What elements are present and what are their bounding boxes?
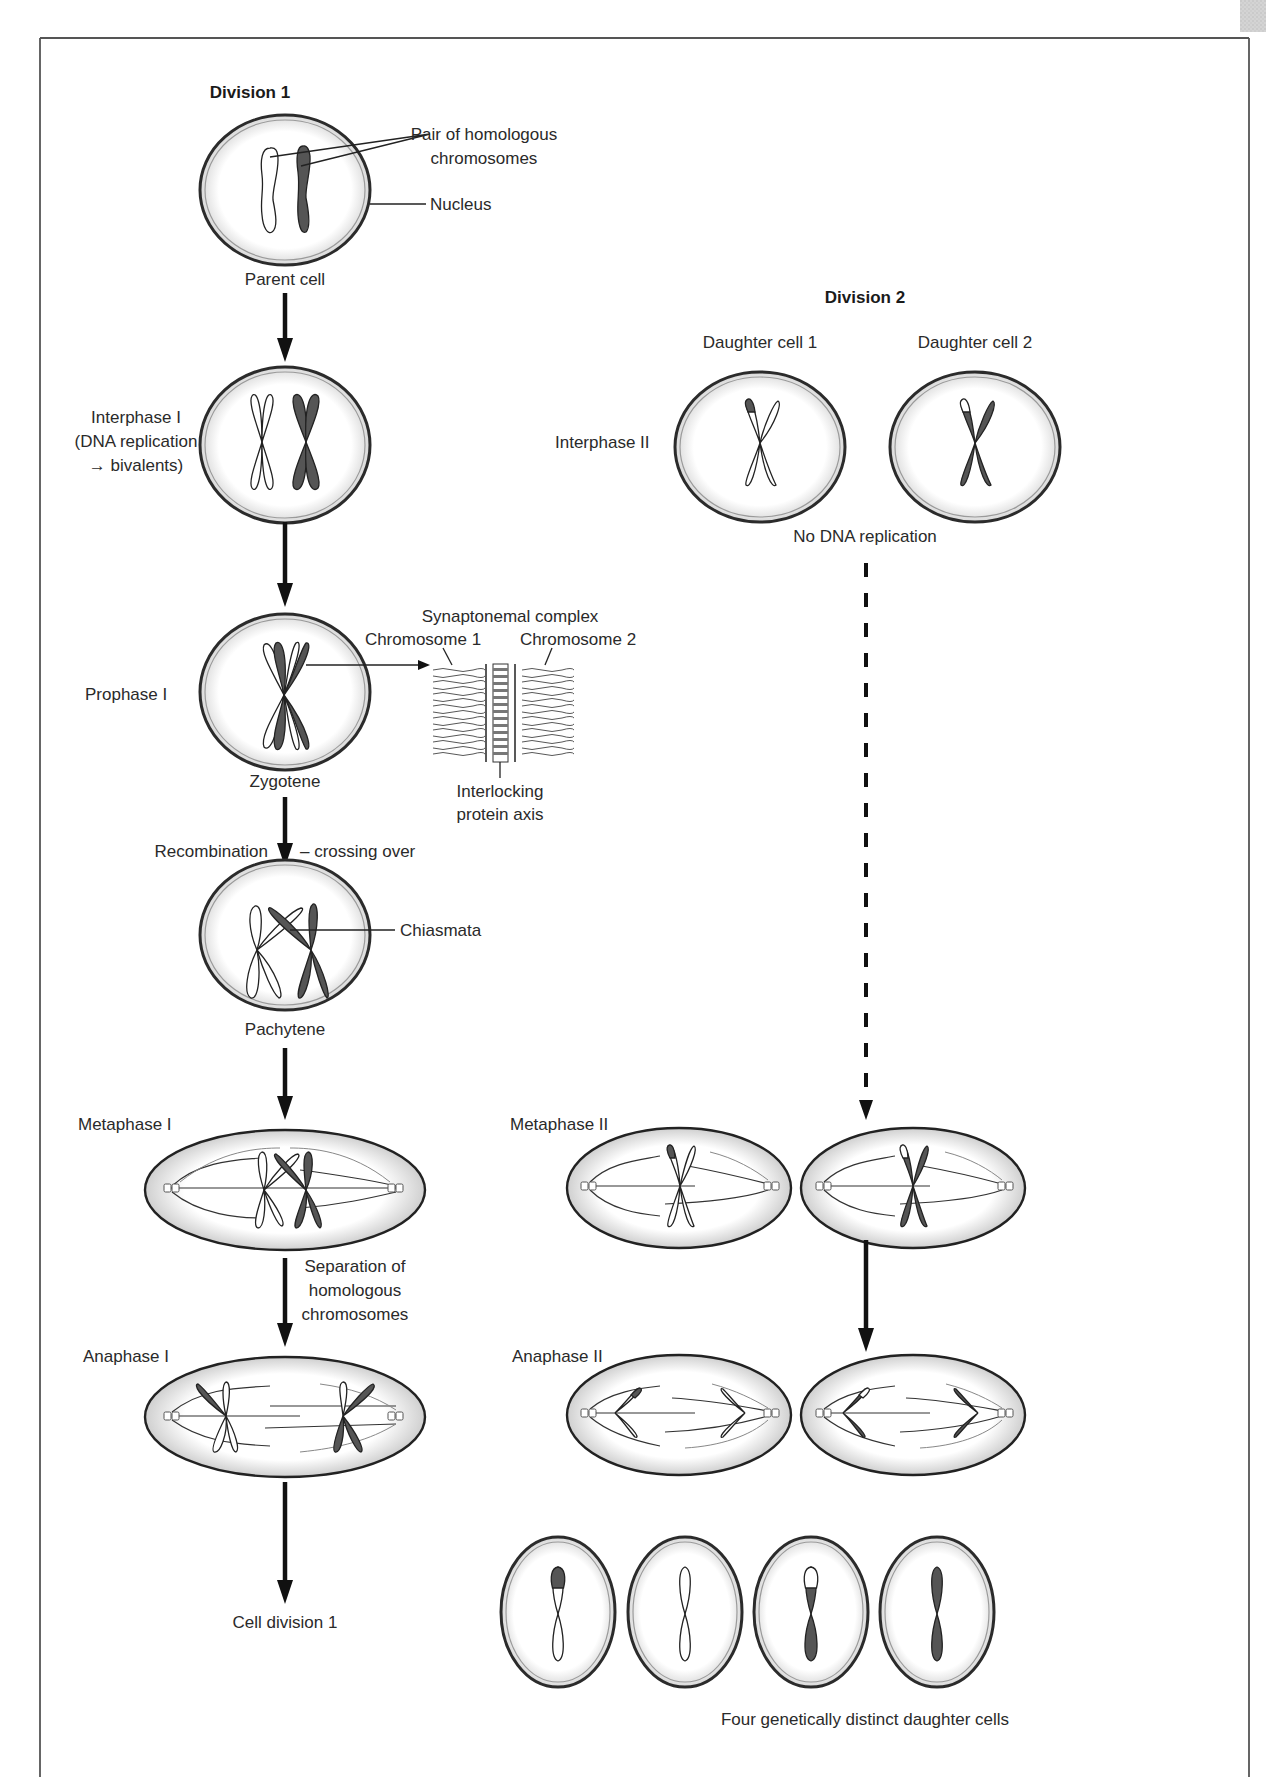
chromosome1-label: Chromosome 1 [365,630,481,649]
separation-label-line2: homologous [309,1281,402,1300]
axis-label-line2: protein axis [457,805,544,824]
chiasmata-label: Chiasmata [400,921,482,940]
homologous-label-line1: Pair of homologous [411,125,557,144]
daughter-cell2-label: Daughter cell 2 [918,333,1032,352]
parent-cell-label: Parent cell [245,270,325,289]
synaptonemal-complex [433,648,574,778]
anaphase2-label: Anaphase II [512,1347,603,1366]
meiosis-diagram: Division 1 Pair of homologous chromosome… [0,0,1276,1777]
arrow-down-icon [858,1240,874,1352]
arrow-down-icon [277,1258,293,1347]
final-daughter-cell-3 [754,1537,868,1687]
final-caption: Four genetically distinct daughter cells [721,1710,1009,1729]
daughter-cell2 [890,372,1060,522]
metaphase2-cell-right [801,1128,1025,1248]
final-daughter-cell-1 [501,1537,615,1687]
dashed-arrow-down-icon [859,563,873,1120]
prophase1-label: Prophase I [85,685,167,704]
crossing-over-label: – crossing over [300,842,416,861]
interphase1-label-line2: (DNA replication [75,432,198,451]
metaphase2-label: Metaphase II [510,1115,608,1134]
arrow-down-icon [277,1482,293,1604]
homologous-label-line2: chromosomes [431,149,538,168]
arrow-down-icon [277,522,293,607]
anaphase1-label: Anaphase I [83,1347,169,1366]
anaphase2-cell-left [567,1355,791,1475]
anaphase1-cell [145,1357,425,1477]
separation-label-line1: Separation of [304,1257,405,1276]
final-daughter-cell-4 [880,1537,994,1687]
daughter-cell1-label: Daughter cell 1 [703,333,817,352]
parent-cell [200,115,430,265]
synaptonemal-title: Synaptonemal complex [422,607,599,626]
pachytene-cell [200,860,395,1010]
corner-tab [1240,0,1266,32]
chromosome2-label: Chromosome 2 [520,630,636,649]
recombination-label: Recombination [155,842,268,861]
nucleus-label: Nucleus [430,195,491,214]
separation-label-line3: chromosomes [302,1305,409,1324]
interphase2-label: Interphase II [555,433,650,452]
arrow-down-icon [277,1048,293,1120]
division2-title: Division 2 [825,288,905,307]
interphase1-label-line1: Interphase I [91,408,181,427]
arrow-down-icon [277,293,293,362]
arrow-down-icon [277,797,293,867]
metaphase2-cell-left [567,1128,791,1248]
pachytene-label: Pachytene [245,1020,325,1039]
final-daughter-cell-2 [628,1537,742,1687]
interphase1-label-line3: → bivalents) [89,456,183,475]
zygotene-label: Zygotene [250,772,321,791]
division1-title: Division 1 [210,83,290,102]
cell-division1-label: Cell division 1 [233,1613,338,1632]
metaphase1-label: Metaphase I [78,1115,172,1134]
axis-label-line1: Interlocking [457,782,544,801]
metaphase1-cell [145,1130,425,1250]
no-replication-label: No DNA replication [793,527,937,546]
anaphase2-cell-right [801,1355,1025,1475]
interphase1-cell [200,367,370,523]
daughter-cell1 [675,372,845,522]
